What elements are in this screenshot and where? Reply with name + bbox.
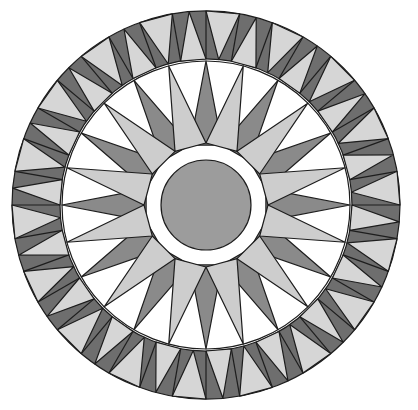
rosette-illustration: Compass Rose Mandala Circular radial geo…	[0, 0, 418, 410]
center-hub	[161, 160, 251, 250]
center-hub-circle	[161, 160, 251, 250]
artwork-canvas: Compass Rose Mandala Circular radial geo…	[0, 0, 418, 410]
